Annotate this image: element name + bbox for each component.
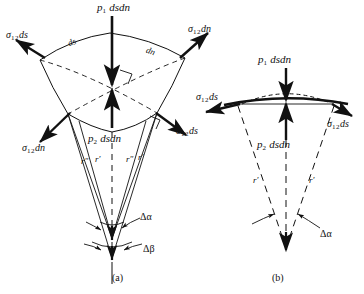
panel-a-label-r-prime-right: r′ xyxy=(138,153,143,162)
panel-a-label-r-double-prime-right: r″ xyxy=(126,155,133,164)
panel-b-label-sigma12-ds-right: σ12ds xyxy=(327,119,349,131)
panel-b-label-delta-alpha: Δα xyxy=(320,229,332,239)
panel-a-caption: (a) xyxy=(112,272,123,283)
diagram-vector-graphics xyxy=(0,0,364,294)
panel-b-caption: (b) xyxy=(272,272,284,283)
panel-a-label-sigma12-dn-bottom-left: σ12dn xyxy=(22,143,45,155)
panel-a-label-p1-dsdn: p1 dsdn xyxy=(97,2,130,15)
panel-b-label-r-prime-left: r′ xyxy=(253,176,258,185)
panel-a-label-sigma12-ds-top-left: σ12ds xyxy=(6,30,28,42)
panel-b-label-p1-dsdn: p1 dsdn xyxy=(258,54,291,67)
panel-a-label-sigma12-dn-top-right: σ12dn xyxy=(188,24,211,36)
panel-b-label-p2-dsdn: p2 dsdn xyxy=(257,139,290,152)
panel-b-edge-force-arrows xyxy=(206,104,352,116)
panel-a-label-delta-alpha: Δα xyxy=(140,212,152,222)
panel-a-label-r-double-prime-left: r″ xyxy=(81,157,88,166)
panel-b-label-sigma12-ds-left: σ12ds xyxy=(196,92,218,104)
panel-a-label-delta-beta: Δβ xyxy=(143,244,155,254)
figure-container: p1 dsdn p2 dsdn σ12ds σ12dn σ12dn σ12ds … xyxy=(0,0,364,294)
panel-a-label-sigma12-ds-bottom-right: σ12ds xyxy=(176,126,198,138)
panel-a-label-r-prime-left: r′ xyxy=(95,155,100,164)
panel-a-label-p2-dsdn: p2 dsdn xyxy=(88,133,121,146)
panel-b-label-r-prime-right: r′ xyxy=(309,176,314,185)
